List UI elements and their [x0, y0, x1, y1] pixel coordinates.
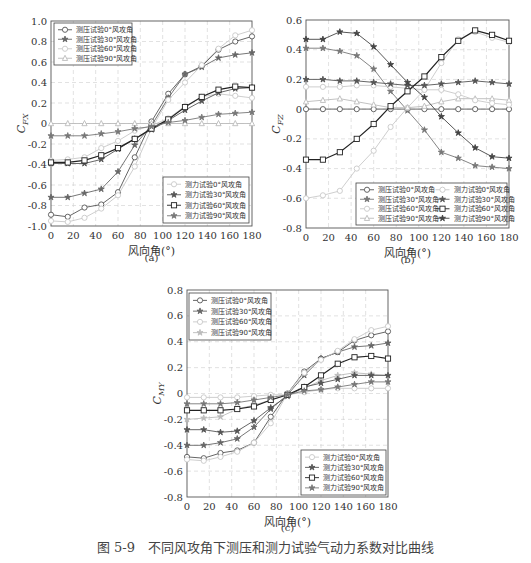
legend-entry: 测压试验0°风攻角 [211, 296, 268, 305]
y-tick-label: -0.8 [164, 492, 183, 503]
star-marker-icon [385, 340, 391, 346]
legend-entry: 测力试验90°风攻角 [185, 211, 246, 220]
star-marker-icon [234, 436, 240, 442]
square-marker-icon [385, 356, 390, 361]
star-marker-icon [354, 78, 360, 84]
chart-panel-c: 020406080100120140160180-0.8-0.6-0.4-0.2… [151, 285, 398, 534]
circle-marker-icon [249, 28, 254, 33]
x-tick-label: 160 [477, 232, 496, 243]
panel-label: (c) [281, 522, 295, 533]
x-tick-label: 80 [134, 230, 147, 241]
legend-upper-left: 测压试验0°风攻角测压试验30°风攻角测压试验60°风攻角测压试验90°风攻角 [54, 23, 137, 65]
y-tick-label: -0.2 [164, 414, 183, 425]
square-marker-icon [82, 158, 87, 163]
y-tick-label: -0.8 [28, 200, 47, 211]
legend-lower-right: 测力试验0°风攻角测力试验30°风攻角测力试验60°风攻角测力试验90°风攻角 [301, 450, 386, 495]
star-marker-icon [48, 133, 54, 139]
series-7 [184, 379, 391, 407]
circle-marker-icon [201, 458, 206, 463]
y-tick-label: 0.6 [31, 57, 47, 68]
square-marker-icon [201, 408, 206, 413]
circle-marker-icon [303, 84, 308, 89]
star-marker-icon [182, 117, 188, 123]
square-marker-icon [422, 74, 427, 79]
circle-marker-icon [132, 155, 137, 160]
y-tick-label: 0 [177, 388, 183, 399]
circle-marker-icon [233, 39, 238, 44]
star-marker-icon [48, 194, 54, 200]
circle-marker-icon [385, 329, 390, 334]
y-tick-label: -0.6 [28, 180, 47, 191]
x-tick-label: 80 [270, 501, 283, 512]
legend-entry: 测压试验30°风攻角 [378, 195, 439, 204]
square-marker-icon [249, 85, 254, 90]
square-marker-icon [473, 28, 478, 33]
legend-entry: 测力试验0°风攻角 [323, 453, 380, 462]
x-tick-label: 100 [409, 232, 428, 243]
star-marker-icon [232, 110, 238, 116]
circle-marker-icon [132, 164, 137, 169]
circle-marker-icon [318, 357, 323, 362]
circle-marker-icon [303, 196, 308, 201]
x-tick-label: 80 [390, 232, 403, 243]
square-marker-icon [439, 55, 444, 60]
star-marker-icon [337, 29, 343, 35]
circle-marker-icon [506, 102, 511, 107]
star-marker-icon [232, 52, 238, 58]
triangle-marker-icon [337, 96, 342, 101]
star-marker-icon [215, 55, 221, 61]
x-tick-label: 140 [198, 230, 217, 241]
y-tick-label: 0.6 [286, 15, 302, 26]
star-marker-icon [371, 66, 377, 72]
circle-marker-icon [320, 107, 325, 112]
star-marker-icon [184, 416, 190, 422]
square-marker-icon [65, 160, 70, 165]
star-marker-icon [438, 81, 444, 87]
circle-marker-icon [82, 215, 87, 220]
chart-panel-b: 020406080100120140160180-0.8-0.6-0.4-0.2… [270, 15, 519, 266]
square-marker-icon [405, 89, 410, 94]
legend-entry: 测力试验60°风攻角 [454, 204, 515, 213]
circle-marker-icon [439, 87, 444, 92]
square-marker-icon [199, 94, 204, 99]
circle-marker-icon [251, 440, 256, 445]
legend-entry: 测压试验60°风攻角 [76, 44, 137, 53]
star-marker-icon [98, 131, 104, 137]
y-tick-label: 0.8 [167, 285, 183, 296]
star-marker-icon [489, 79, 495, 85]
circle-marker-icon [473, 98, 478, 103]
y-tick-label: 0.2 [167, 362, 183, 373]
series-2 [303, 29, 511, 201]
y-tick-label: 0.8 [31, 36, 47, 47]
circle-marker-icon [184, 457, 189, 462]
square-marker-icon [216, 87, 221, 92]
figure-canvas: 020406080100120140160180-1.0-0.8-0.6-0.4… [0, 0, 531, 563]
legend-entry: 测压试验90°风攻角 [76, 54, 137, 63]
star-marker-icon [217, 439, 223, 445]
star-marker-icon [303, 36, 309, 42]
circle-marker-icon [303, 107, 308, 112]
legend-entry: 测力试验60°风攻角 [323, 473, 384, 482]
legend-entry: 测力试验30°风攻角 [454, 195, 515, 204]
star-marker-icon [217, 401, 223, 407]
series-6 [303, 28, 511, 162]
x-tick-label: 40 [345, 232, 358, 243]
star-marker-icon [201, 427, 207, 433]
star-marker-icon [234, 399, 240, 405]
circle-marker-icon [337, 107, 342, 112]
legend-entry: 测压试验30°风攻角 [76, 35, 137, 44]
star-marker-icon [320, 76, 326, 82]
y-tick-label: 0 [41, 118, 47, 129]
legend-upper-left: 测压试验0°风攻角测压试验30°风攻角测压试验60°风攻角测压试验90°风攻角 [189, 293, 272, 340]
y-tick-label: -0.8 [283, 223, 302, 234]
circle-marker-icon [249, 95, 254, 100]
circle-marker-icon [48, 212, 53, 217]
series-7 [303, 29, 512, 161]
legend-square-icon [440, 206, 445, 211]
square-marker-icon [506, 38, 511, 43]
star-marker-icon [337, 78, 343, 84]
circle-marker-icon [369, 328, 374, 333]
star-marker-icon [201, 442, 207, 448]
star-marker-icon [320, 36, 326, 42]
circle-marker-icon [369, 333, 374, 338]
